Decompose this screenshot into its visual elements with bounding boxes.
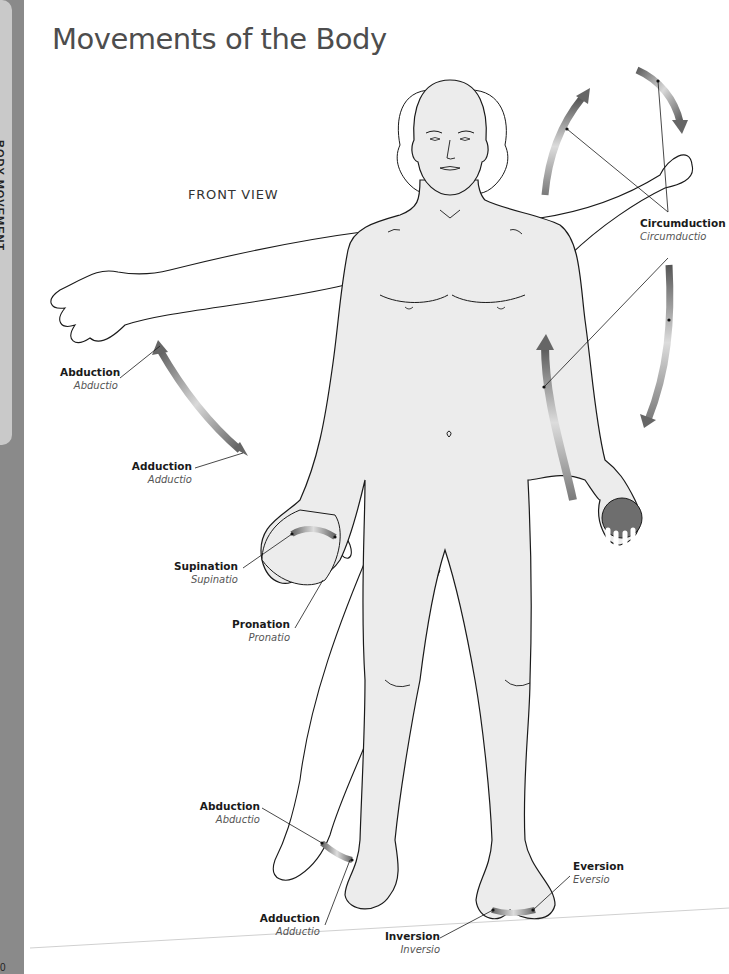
label-la: Eversio: [573, 873, 624, 886]
head-outline: [412, 80, 488, 195]
leg-abduction-arrow: [322, 843, 352, 860]
label-pronation: Pronation Pronatio: [226, 618, 290, 644]
label-la: Abductio: [196, 813, 260, 826]
label-en: Supination: [172, 560, 238, 573]
leader-line: [120, 346, 160, 378]
label-la: Inversio: [376, 943, 440, 956]
label-adduction-leg: Adduction Adductio: [256, 912, 320, 938]
label-la: Pronatio: [226, 631, 290, 644]
extension-arrow-down: [648, 265, 670, 420]
label-la: Abductio: [60, 379, 118, 392]
circumduction-arrow-up: [545, 98, 582, 195]
label-en: Eversion: [573, 860, 624, 873]
label-eversion: Eversion Eversio: [573, 860, 624, 886]
leader-line: [658, 81, 668, 212]
label-en: Pronation: [226, 618, 290, 631]
body-movements-illustration: [0, 0, 729, 974]
label-supination: Supination Supinatio: [172, 560, 238, 586]
label-circumduction: Circumduction Circumductio: [640, 217, 726, 243]
label-en: Adduction: [130, 460, 192, 473]
label-en: Abduction: [196, 800, 260, 813]
label-abduction-leg: Abduction Abductio: [196, 800, 260, 826]
circumduction-arrow-down: [637, 70, 680, 122]
leader-line: [295, 580, 323, 628]
label-inversion: Inversion Inversio: [376, 930, 440, 956]
label-la: Adductio: [256, 925, 320, 938]
label-abduction-arm: Abduction Abductio: [60, 366, 118, 392]
label-la: Adductio: [130, 473, 192, 486]
label-la: Supinatio: [172, 573, 238, 586]
label-en: Abduction: [60, 366, 118, 379]
label-la: Circumductio: [640, 230, 726, 243]
label-en: Circumduction: [640, 217, 726, 230]
abducted-arm-outline: [51, 232, 362, 342]
inversion-eversion-arrow: [492, 910, 535, 913]
label-en: Adduction: [256, 912, 320, 925]
label-en: Inversion: [376, 930, 440, 943]
leader-line: [195, 453, 243, 468]
abduction-arm-arrow: [160, 350, 240, 450]
arrow-head: [672, 120, 688, 134]
label-adduction-arm: Adduction Adductio: [130, 460, 192, 486]
